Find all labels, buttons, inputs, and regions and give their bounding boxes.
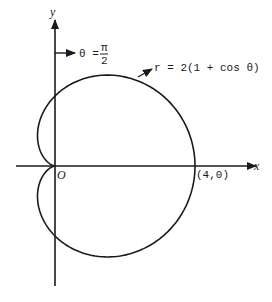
theta-denominator: 2 [101,55,108,67]
equation-label: r = 2(1 + cos θ) [154,62,260,74]
y-axis-label: y [49,5,56,19]
theta-label: θ = [79,48,99,60]
theta-numerator: π [101,42,108,54]
point-label: (4,0) [196,169,229,181]
equation-pointer [138,69,152,77]
origin-label: O [57,168,66,182]
cardioid-diagram: y x O θ = π 2 r = 2(1 + cos θ) (4,0) [0,0,272,302]
x-axis-label: x [253,159,260,173]
